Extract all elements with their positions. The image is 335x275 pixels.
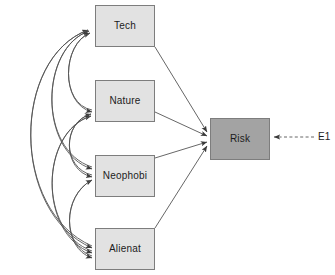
covariance-arcs-group xyxy=(31,30,92,258)
node-alienat-label: Alienat xyxy=(109,244,141,254)
regression-path-neophobi-risk xyxy=(155,142,207,158)
node-nature[interactable]: Nature xyxy=(95,80,155,122)
covariance-arc-nature-tech xyxy=(69,33,93,112)
regression-path-alienat-risk xyxy=(155,146,207,228)
node-alienat[interactable]: Alienat xyxy=(95,228,155,270)
node-neophobi-label: Neophobi xyxy=(103,171,147,181)
node-nature-label: Nature xyxy=(109,96,140,106)
regression-path-tech-risk xyxy=(155,47,207,132)
node-risk[interactable]: Risk xyxy=(210,118,270,160)
covariance-arc-tech-alienat xyxy=(31,30,92,246)
regression-paths-group xyxy=(155,47,207,228)
node-neophobi[interactable]: Neophobi xyxy=(95,155,155,197)
error-term-e1[interactable]: E1 xyxy=(318,132,330,142)
node-tech-label: Tech xyxy=(114,21,136,31)
node-risk-label: Risk xyxy=(230,134,250,144)
path-lines-layer xyxy=(0,0,335,275)
covariance-arc-alienat-tech xyxy=(31,30,92,248)
node-tech[interactable]: Tech xyxy=(95,5,155,47)
path-diagram-canvas: Tech Nature Neophobi Alienat Risk E1 xyxy=(0,0,335,275)
covariance-arc-tech-nature xyxy=(69,33,93,110)
regression-path-nature-risk xyxy=(155,112,207,136)
